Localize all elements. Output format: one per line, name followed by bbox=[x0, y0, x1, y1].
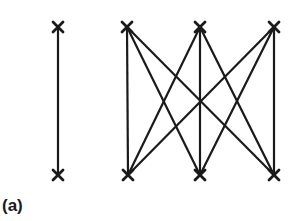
figure-caption: (a) bbox=[2, 196, 23, 216]
graph-k2 bbox=[53, 22, 63, 180]
edge bbox=[127, 27, 128, 175]
graph-k3-3 bbox=[122, 22, 279, 180]
graph-diagram bbox=[0, 0, 303, 221]
